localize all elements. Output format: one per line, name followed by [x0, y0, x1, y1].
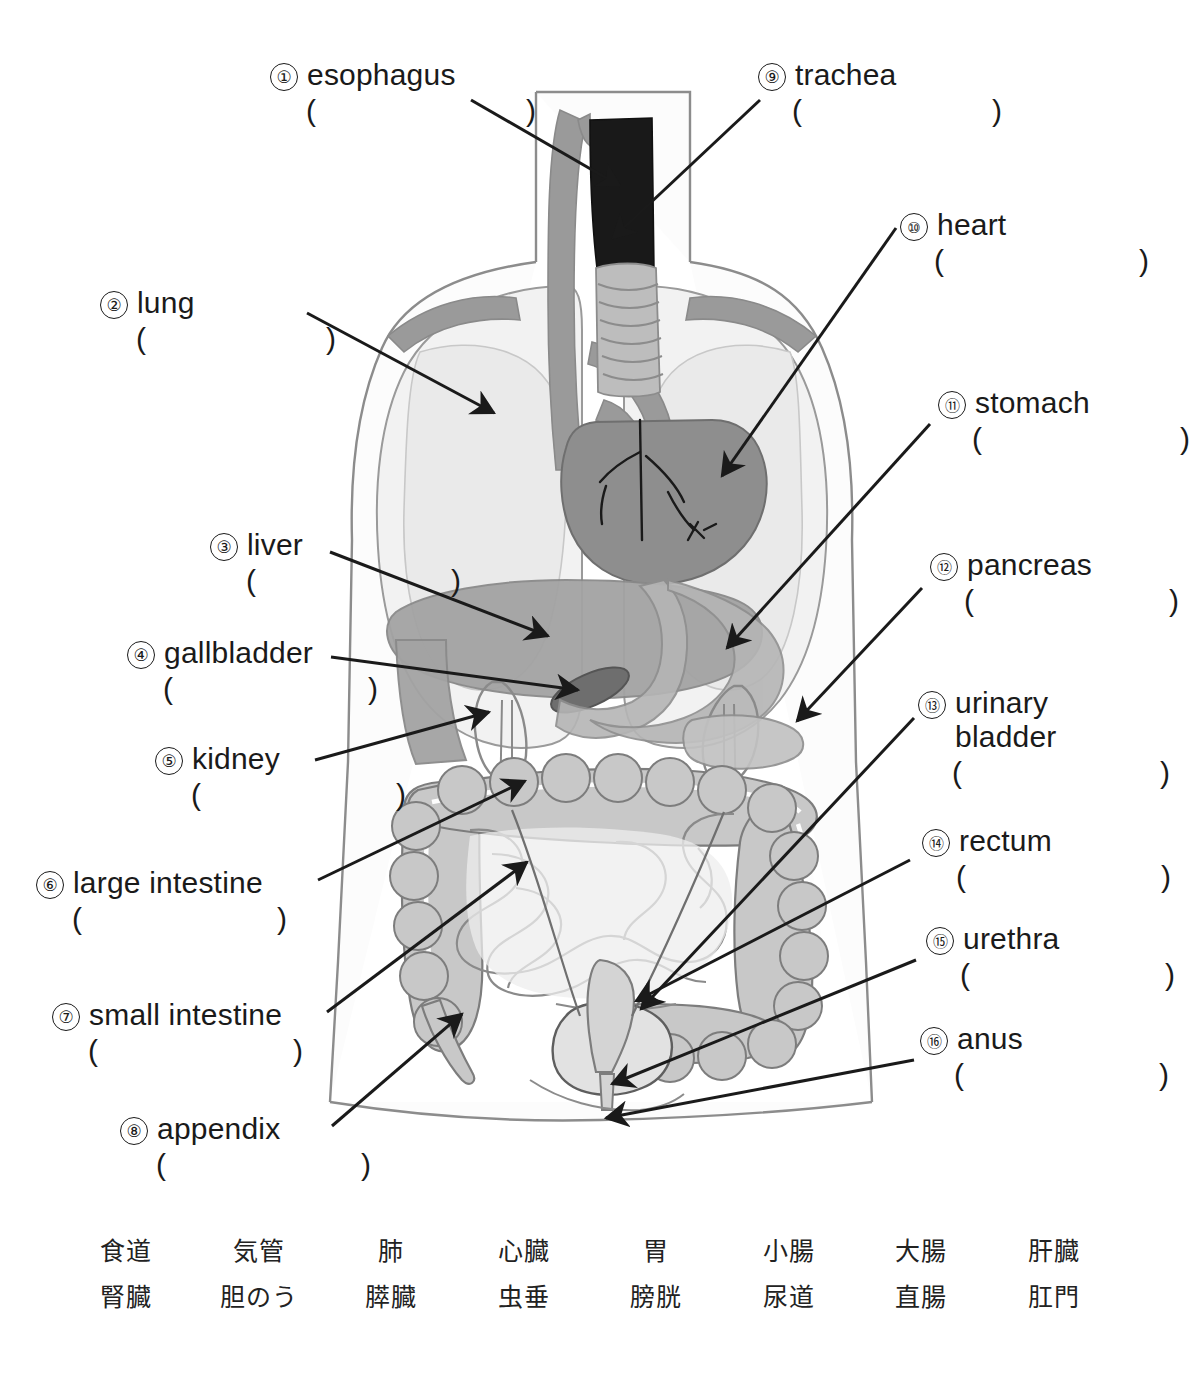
- answer-paren-open: (: [954, 1058, 964, 1092]
- answer-paren-open: (: [136, 322, 146, 356]
- label-text: anus: [957, 1022, 1023, 1056]
- urethra-organ: [600, 1074, 614, 1110]
- word-bank-item[interactable]: 肝臓: [988, 1228, 1121, 1274]
- word-bank-item[interactable]: 直腸: [855, 1274, 988, 1320]
- label-anus: ⑯anus(): [920, 1022, 1169, 1092]
- label-term: ⑥large intestine: [36, 866, 287, 900]
- answer-paren-close: ): [326, 322, 336, 356]
- word-bank-item[interactable]: 小腸: [723, 1228, 856, 1274]
- answer-blank[interactable]: (): [246, 564, 461, 598]
- label-number: ③: [210, 533, 238, 561]
- answer-blank[interactable]: (): [954, 1058, 1169, 1092]
- label-term: ⑨trachea: [758, 58, 1002, 92]
- leader-trachea: [613, 100, 760, 238]
- label-number: ⑧: [120, 1117, 148, 1145]
- word-bank-item[interactable]: 大腸: [855, 1228, 988, 1274]
- answer-blank[interactable]: (): [934, 244, 1149, 278]
- leader-pancreas: [797, 588, 922, 721]
- kidney-organ: [475, 682, 759, 810]
- large-intestine-highlight: [426, 785, 820, 996]
- label-rectum: ⑭rectum(): [922, 824, 1171, 894]
- answer-blank[interactable]: (): [964, 584, 1179, 618]
- label-term: ⑩heart: [900, 208, 1149, 242]
- word-bank-item[interactable]: 胃: [590, 1228, 723, 1274]
- label-trachea: ⑨trachea(): [758, 58, 1002, 128]
- label-text: pancreas: [967, 548, 1092, 582]
- answer-blank[interactable]: (): [191, 778, 406, 812]
- ureters: [512, 810, 724, 1016]
- word-bank-item[interactable]: 食道: [60, 1228, 193, 1274]
- label-number: ⑯: [920, 1027, 948, 1055]
- label-esophagus: ①esophagus(): [270, 58, 536, 128]
- urinary-bladder-organ: [553, 1002, 672, 1095]
- label-text-line1: urethra: [963, 922, 1059, 955]
- heart-organ: [561, 420, 766, 584]
- answer-paren-close: ): [526, 94, 536, 128]
- label-text-line1: trachea: [795, 58, 896, 91]
- answer-paren-close: ): [992, 94, 1002, 128]
- answer-paren-open: (: [964, 584, 974, 618]
- answer-paren-open: (: [972, 422, 982, 456]
- word-bank-item[interactable]: 膀胱: [590, 1274, 723, 1320]
- answer-paren-open: (: [156, 1148, 166, 1182]
- answer-blank[interactable]: (): [163, 672, 378, 706]
- answer-paren-close: ): [1165, 958, 1175, 992]
- word-bank-item[interactable]: 肺: [325, 1228, 458, 1274]
- label-term: ⑭rectum: [922, 824, 1171, 858]
- word-bank-item[interactable]: 尿道: [723, 1274, 856, 1320]
- answer-paren-close: ): [1169, 584, 1179, 618]
- label-heart: ⑩heart(): [900, 208, 1149, 278]
- label-term: ③liver: [210, 528, 461, 562]
- word-bank-item[interactable]: 心臓: [458, 1228, 591, 1274]
- label-text-line1: urinary: [955, 686, 1048, 719]
- answer-blank[interactable]: (): [960, 958, 1175, 992]
- answer-paren-open: (: [191, 778, 201, 812]
- answer-paren-close: ): [1180, 422, 1190, 456]
- answer-blank[interactable]: (): [972, 422, 1190, 456]
- label-urinary: ⑬urinarybladder(): [918, 686, 1170, 790]
- word-bank-item[interactable]: 胆のう: [193, 1274, 326, 1320]
- leader-small-intestine: [327, 862, 527, 1012]
- answer-blank[interactable]: (): [72, 902, 287, 936]
- answer-blank[interactable]: (): [156, 1148, 371, 1182]
- label-text-line1: stomach: [975, 386, 1090, 419]
- label-text-line1: esophagus: [307, 58, 456, 91]
- answer-blank[interactable]: (): [952, 756, 1170, 790]
- answer-paren-open: (: [306, 94, 316, 128]
- label-number: ⑭: [922, 829, 950, 857]
- gallbladder-organ: [545, 658, 635, 721]
- leader-urinary-bladder: [641, 718, 914, 1009]
- small-intestine-organ: [457, 814, 734, 1010]
- small-intestine-fill: [466, 828, 732, 999]
- label-stomach: ⑪stomach(): [938, 386, 1190, 456]
- answer-blank[interactable]: (): [136, 322, 336, 356]
- liver-organ: [387, 580, 762, 764]
- answer-blank[interactable]: (): [792, 94, 1002, 128]
- label-term: ⑤kidney: [155, 742, 406, 776]
- label-term: ①esophagus: [270, 58, 536, 92]
- word-bank-item[interactable]: 肛門: [988, 1274, 1121, 1320]
- answer-paren-close: ): [293, 1034, 303, 1068]
- label-text-line1: heart: [937, 208, 1006, 241]
- answer-blank[interactable]: (): [306, 94, 536, 128]
- word-bank-item[interactable]: 虫垂: [458, 1274, 591, 1320]
- answer-paren-close: ): [361, 1148, 371, 1182]
- label-number: ①: [270, 63, 298, 91]
- answer-paren-open: (: [960, 958, 970, 992]
- label-text: lung: [137, 286, 195, 320]
- answer-blank[interactable]: (): [956, 860, 1171, 894]
- label-text: large intestine: [73, 866, 263, 900]
- word-bank-item[interactable]: 腎臓: [60, 1274, 193, 1320]
- label-term: ⑯anus: [920, 1022, 1169, 1056]
- answer-paren-close: ): [277, 902, 287, 936]
- colon-haustra: [390, 754, 828, 1082]
- label-text: esophagus: [307, 58, 456, 92]
- label-number: ⑥: [36, 871, 64, 899]
- word-bank-item[interactable]: 膵臓: [325, 1274, 458, 1320]
- answer-blank[interactable]: (): [88, 1034, 303, 1068]
- answer-paren-close: ): [1160, 756, 1170, 790]
- label-number: ⑨: [758, 63, 786, 91]
- word-bank-item[interactable]: 気管: [193, 1228, 326, 1274]
- answer-paren-close: ): [396, 778, 406, 812]
- label-number: ⑮: [926, 927, 954, 955]
